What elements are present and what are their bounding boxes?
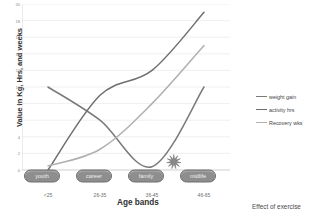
legend-item: activity hrs <box>256 103 318 116</box>
gridlines <box>22 4 230 170</box>
series-lines <box>48 12 204 170</box>
series-line-weight-gain <box>48 87 204 167</box>
y-tick-label: 12 <box>15 68 20 73</box>
figure-caption: Effect of exercise <box>252 203 301 210</box>
y-tick-label: 0 <box>18 168 20 173</box>
legend-swatch-icon <box>256 109 267 111</box>
y-tick-label: 10 <box>15 85 20 90</box>
y-tick-label: 16 <box>15 35 20 40</box>
legend-label: Recovery wks <box>269 120 303 126</box>
legend-item: weight gain <box>256 90 318 103</box>
stage-pill-youth: youth <box>24 170 60 183</box>
plot-area: 02468101214161820 <2526-3536-4546-65 you… <box>22 4 230 186</box>
legend-item: Recovery wks <box>256 116 318 129</box>
chart-figure: Value in Kg, Hrs, and weeks 024681012141… <box>0 0 318 217</box>
stage-pill-midlife: midlife <box>180 170 216 183</box>
chart-canvas <box>22 4 230 186</box>
chart-legend: weight gainactivity hrsRecovery wks <box>256 90 318 129</box>
stage-pill-career: career <box>76 170 112 183</box>
series-line-recovery-wks <box>48 46 204 166</box>
y-tick-label: 4 <box>18 134 20 139</box>
y-tick-label: 8 <box>18 101 20 106</box>
legend-swatch-icon <box>256 96 267 98</box>
stage-pill-family: family <box>128 170 164 183</box>
y-tick-label: 18 <box>15 18 20 23</box>
x-axis-title: Age bands <box>38 198 238 207</box>
y-tick-label: 6 <box>18 118 20 123</box>
legend-label: weight gain <box>269 94 296 100</box>
y-tick-label: 14 <box>15 51 20 56</box>
y-tick-label: 20 <box>15 2 20 7</box>
series-line-activity-hrs <box>48 12 204 170</box>
legend-swatch-icon <box>256 122 267 124</box>
legend-label: activity hrs <box>269 107 294 113</box>
starburst-marker <box>167 155 181 169</box>
y-tick-label: 2 <box>18 151 20 156</box>
